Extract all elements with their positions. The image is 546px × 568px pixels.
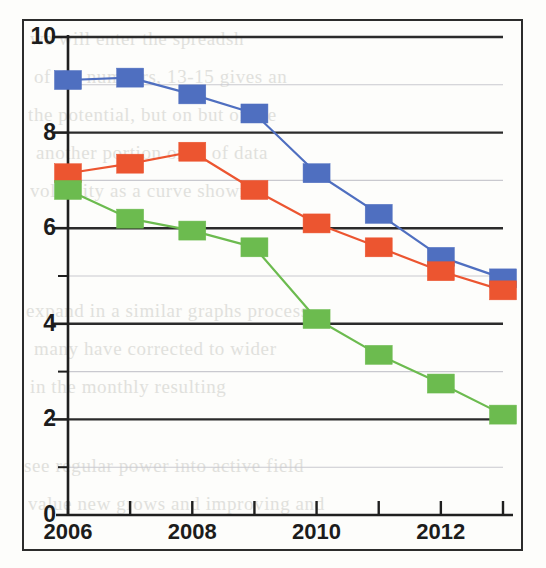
- y-axis-tick-label: 2: [22, 405, 56, 432]
- scanned-page: we will enter the spreadshof the numbers…: [0, 0, 546, 568]
- y-axis-tick-label: 6: [22, 214, 56, 241]
- x-axis-tick-label: 2008: [155, 519, 229, 545]
- figure-frame: [22, 19, 523, 551]
- y-axis-tick-label: 4: [22, 310, 56, 337]
- x-axis-tick-label: 2010: [280, 519, 354, 545]
- y-axis-tick-label: 8: [22, 119, 56, 146]
- x-axis-tick-label: 2012: [404, 519, 478, 545]
- y-axis-tick-label: 10: [22, 23, 56, 50]
- x-axis-tick-label: 2006: [31, 519, 105, 545]
